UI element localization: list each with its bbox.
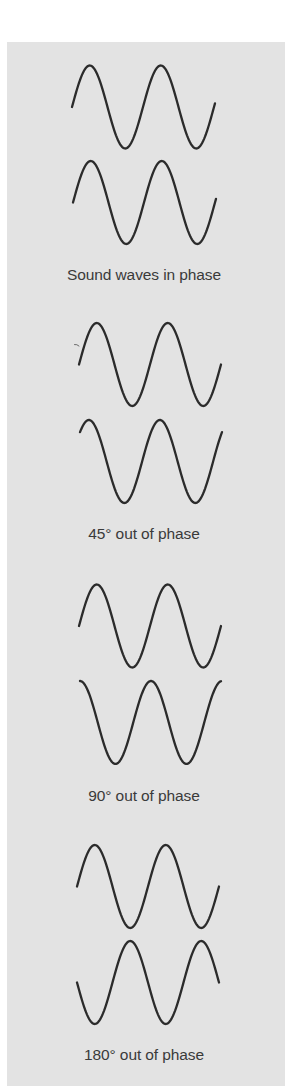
sine-wave-reference	[72, 66, 215, 149]
sine-wave-compared	[77, 941, 219, 1024]
sine-wave-reference	[79, 323, 221, 406]
sine-wave-compared	[73, 161, 216, 244]
sine-wave-compared	[80, 681, 221, 764]
section-45-out-of-phase	[75, 323, 223, 503]
sine-wave-compared	[80, 420, 222, 503]
section-in-phase	[72, 66, 216, 244]
section-90-out-of-phase	[79, 585, 221, 764]
caption-in-phase: Sound waves in phase	[0, 266, 288, 284]
sine-wave-reference	[77, 845, 219, 928]
caption-180-out-of-phase: 180° out of phase	[0, 1046, 288, 1064]
stray-pen-mark	[75, 344, 80, 346]
caption-90-out-of-phase: 90° out of phase	[0, 787, 288, 805]
caption-45-out-of-phase: 45° out of phase	[0, 525, 288, 543]
section-180-out-of-phase	[77, 845, 219, 1024]
sine-wave-reference	[79, 585, 221, 668]
waves-canvas	[0, 0, 302, 1086]
